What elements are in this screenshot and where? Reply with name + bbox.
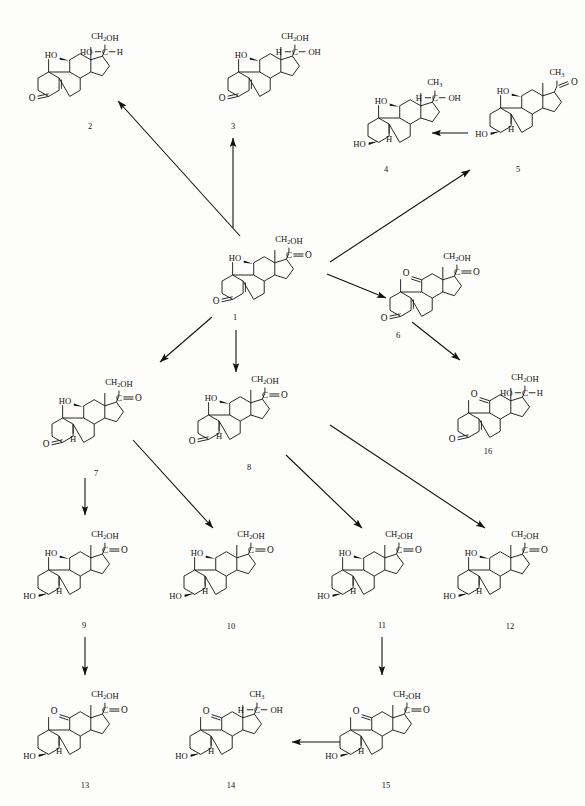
reaction-arrow-1-to-7 xyxy=(160,317,212,362)
compound-number-11: 11 xyxy=(378,621,386,630)
svg-text:CH2OH: CH2OH xyxy=(393,689,420,701)
svg-text:C: C xyxy=(454,267,460,277)
svg-text:CH2OH: CH2OH xyxy=(91,31,118,43)
svg-text:H: H xyxy=(56,586,62,596)
svg-text:O: O xyxy=(403,268,410,278)
compound-number-15: 15 xyxy=(382,781,390,790)
svg-text:O: O xyxy=(353,706,360,716)
svg-text:O: O xyxy=(541,545,548,555)
structure-14: HOHOCH3CHOH xyxy=(175,689,283,761)
svg-text:H: H xyxy=(386,134,392,144)
reaction-arrow-1-to-5 xyxy=(330,170,470,262)
compound-number-10: 10 xyxy=(227,622,235,631)
svg-text:HO: HO xyxy=(45,548,57,558)
svg-text:HO: HO xyxy=(500,388,512,398)
svg-text:O: O xyxy=(571,77,578,87)
svg-text:HO: HO xyxy=(465,548,477,558)
svg-text:C: C xyxy=(522,545,528,555)
svg-text:HO: HO xyxy=(205,393,217,403)
reaction-arrow-8-to-11 xyxy=(286,455,362,528)
reaction-arrow-1-to-2 xyxy=(118,101,240,236)
svg-text:H: H xyxy=(476,586,482,596)
svg-text:O: O xyxy=(381,313,388,323)
svg-text:HO: HO xyxy=(375,96,387,106)
svg-text:H: H xyxy=(508,124,514,134)
svg-text:OH: OH xyxy=(448,93,460,103)
svg-text:O: O xyxy=(51,706,58,716)
svg-text:O: O xyxy=(121,545,128,555)
structure-12: HOHHOCH2OHCO xyxy=(443,529,548,601)
svg-text:O: O xyxy=(423,705,430,715)
svg-text:C: C xyxy=(286,250,292,260)
compound-number-7: 7 xyxy=(94,469,98,478)
svg-text:HO: HO xyxy=(23,751,35,761)
svg-text:H: H xyxy=(358,746,364,756)
svg-text:O: O xyxy=(29,93,36,103)
structure-4: HOHHOCH3CHOH xyxy=(353,77,461,149)
reaction-arrow-1-to-6 xyxy=(327,274,386,298)
svg-text:HO: HO xyxy=(80,47,92,57)
svg-text:H: H xyxy=(416,93,422,103)
svg-text:HO: HO xyxy=(325,751,337,761)
svg-text:C: C xyxy=(102,545,108,555)
svg-text:O: O xyxy=(203,706,210,716)
structure-15: HOHOCH2OHCO xyxy=(325,689,430,761)
reaction-scheme-canvas: OHOCH2OHCOOHOCH2OHCHOHOHOCH2OHCHOHHOHHOC… xyxy=(0,0,585,806)
svg-text:C: C xyxy=(262,390,268,400)
svg-text:O: O xyxy=(213,296,220,306)
svg-text:O: O xyxy=(415,545,422,555)
structure-3: OHOCH2OHCHOH xyxy=(219,31,321,103)
svg-text:C: C xyxy=(292,47,298,57)
svg-text:H: H xyxy=(70,434,76,444)
svg-text:HO: HO xyxy=(497,86,509,96)
svg-text:HO: HO xyxy=(353,139,365,149)
svg-text:CH2OH: CH2OH xyxy=(91,689,118,701)
svg-text:OH: OH xyxy=(270,705,282,715)
svg-text:HO: HO xyxy=(317,591,329,601)
svg-text:O: O xyxy=(473,267,480,277)
svg-text:CH2OH: CH2OH xyxy=(105,377,132,389)
structure-2: OHOCH2OHCHOH xyxy=(29,31,123,103)
svg-text:HO: HO xyxy=(59,396,71,406)
svg-text:O: O xyxy=(305,250,312,260)
svg-text:H: H xyxy=(537,388,543,398)
reaction-arrow-6-to-16 xyxy=(412,322,460,360)
svg-text:C: C xyxy=(116,393,122,403)
svg-text:C: C xyxy=(254,705,260,715)
svg-text:H: H xyxy=(238,705,244,715)
compound-number-2: 2 xyxy=(88,122,92,131)
compound-number-13: 13 xyxy=(81,781,89,790)
reaction-arrow-8-to-12 xyxy=(330,425,485,528)
structure-1: OHOCH2OHCO xyxy=(213,234,312,306)
svg-text:CH3: CH3 xyxy=(427,77,442,88)
structure-10: HOHHOCH2OHCO xyxy=(169,529,274,601)
svg-text:HO: HO xyxy=(443,591,455,601)
svg-text:O: O xyxy=(189,436,196,446)
svg-text:CH2OH: CH2OH xyxy=(443,251,470,263)
svg-text:CH2OH: CH2OH xyxy=(511,372,538,384)
svg-text:O: O xyxy=(43,439,50,449)
structure-8: OHHOCH2OHCO xyxy=(189,374,288,446)
svg-text:H: H xyxy=(208,746,214,756)
svg-text:O: O xyxy=(471,389,478,399)
svg-text:O: O xyxy=(449,434,456,444)
svg-text:C: C xyxy=(248,545,254,555)
svg-text:H: H xyxy=(117,47,123,57)
svg-text:CH2OH: CH2OH xyxy=(511,529,538,541)
svg-text:CH2OH: CH2OH xyxy=(251,374,278,386)
compound-number-6: 6 xyxy=(396,331,400,340)
svg-text:H: H xyxy=(350,586,356,596)
svg-text:H: H xyxy=(216,431,222,441)
svg-text:HO: HO xyxy=(475,129,487,139)
svg-text:HO: HO xyxy=(339,548,351,558)
svg-text:H: H xyxy=(56,746,62,756)
svg-text:O: O xyxy=(135,393,142,403)
svg-text:CH2OH: CH2OH xyxy=(91,529,118,541)
svg-text:CH3: CH3 xyxy=(549,67,564,78)
structure-9: HOHHOCH2OHCO xyxy=(23,529,128,601)
svg-text:HO: HO xyxy=(175,751,187,761)
compound-number-12: 12 xyxy=(506,622,514,631)
svg-text:O: O xyxy=(281,390,288,400)
svg-text:H: H xyxy=(276,47,282,57)
compound-number-1: 1 xyxy=(233,313,237,322)
